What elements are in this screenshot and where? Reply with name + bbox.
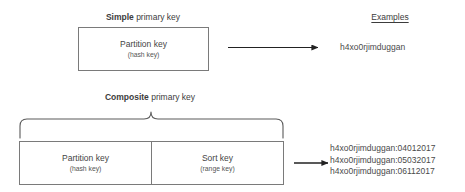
composite-partition-key-cell: Partition key (hash key) (20, 142, 152, 184)
composite-partition-key-sublabel: (hash key) (70, 164, 102, 173)
primary-key-diagram: Simple primary key Partition key (hash k… (0, 0, 465, 192)
simple-partition-key-cell: Partition key (hash key) (79, 28, 208, 70)
simple-key-example-value: h4xo0rjimduggan (340, 42, 405, 53)
composite-sort-key-sublabel: (range key) (200, 164, 234, 173)
composite-partition-key-label: Partition key (62, 153, 109, 164)
composite-primary-key-title: Composite primary key (85, 92, 215, 102)
composite-sort-key-label: Sort key (202, 153, 233, 164)
simple-title-strong: Simple (106, 12, 134, 22)
simple-partition-key-sublabel: (hash key) (128, 50, 160, 59)
simple-title-rest: primary key (134, 12, 180, 22)
composite-key-example-value: h4xo0rjimduggan:06112017 (330, 166, 435, 178)
simple-primary-key-box: Partition key (hash key) (78, 27, 209, 71)
composite-key-example-list: h4xo0rjimduggan:04012017 h4xo0rjimduggan… (330, 143, 435, 178)
composite-sort-key-cell: Sort key (range key) (152, 142, 283, 184)
composite-title-strong: Composite (105, 92, 149, 102)
composite-title-rest: primary key (149, 92, 195, 102)
composite-primary-key-box: Partition key (hash key) Sort key (range… (19, 141, 284, 185)
composite-key-example-value: h4xo0rjimduggan:04012017 (330, 143, 435, 155)
simple-partition-key-label: Partition key (120, 39, 167, 50)
composite-key-example-value: h4xo0rjimduggan:05032017 (330, 155, 435, 167)
examples-heading: Examples (340, 12, 440, 22)
composite-curly-brace-icon (20, 112, 283, 138)
simple-primary-key-title: Simple primary key (78, 12, 208, 22)
